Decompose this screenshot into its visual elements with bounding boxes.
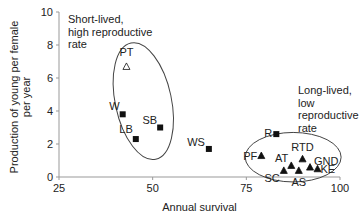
point-label: SB [142, 114, 157, 126]
point-label: PF [243, 150, 257, 162]
annotations: Short-lived,high reproductiverateLong-li… [68, 13, 359, 134]
point-label: KE [321, 163, 336, 175]
point-label: R [264, 127, 272, 139]
x-tick-label: 25 [53, 182, 65, 194]
point-label: W [109, 100, 120, 112]
point-label: PT [119, 46, 133, 58]
point-label: SC [265, 172, 280, 184]
triangle-marker [280, 167, 287, 174]
annotation-short-lived: Short-lived,high reproductiverate [68, 13, 152, 50]
square-marker [133, 136, 139, 142]
y-tick-label: 2 [47, 138, 53, 150]
point-label: AS [291, 176, 306, 188]
annotation-long-lived: Long-lived,lowreproductiverate [298, 84, 359, 134]
point-label: LB [119, 123, 132, 135]
square-marker [120, 111, 126, 117]
x-tick-label: 50 [147, 182, 159, 194]
y-axis-title: Production of young per femaleper year [8, 21, 32, 174]
triangle-marker [299, 155, 306, 162]
triangle-marker [258, 152, 265, 159]
y-tick-label: 4 [47, 105, 53, 117]
triangle-marker [307, 164, 314, 171]
y-tick-label: 10 [41, 6, 53, 18]
open-triangle-marker [123, 63, 130, 69]
y-tick-label: 6 [47, 72, 53, 84]
x-tick-label: 100 [331, 182, 349, 194]
point-label: RTD [291, 141, 313, 153]
y-tick-label: 8 [47, 39, 53, 51]
x-tick-label: 75 [240, 182, 252, 194]
square-marker [273, 131, 279, 137]
square-marker [206, 146, 212, 152]
point-label: WS [187, 136, 205, 148]
point-label: AT [275, 152, 289, 164]
square-marker [157, 125, 163, 131]
triangle-marker [288, 162, 295, 169]
scatter-chart: 0246810255075100Annual survivalProductio… [0, 0, 364, 218]
triangle-marker [295, 167, 302, 174]
x-axis-title: Annual survival [162, 201, 237, 213]
